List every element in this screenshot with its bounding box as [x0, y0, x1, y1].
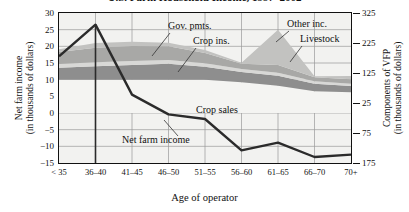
right-tick-label: 25 [362, 98, 392, 108]
left-tick-label: 15 [28, 58, 54, 68]
annotation-livestock: Livestock [300, 33, 339, 44]
annotation-net-farm-income: Net farm income [122, 134, 190, 145]
right-tick-mark [353, 73, 360, 74]
annotation-crop-ins: Crop ins. [193, 35, 230, 46]
left-tick-label: 5 [28, 91, 54, 101]
left-tick-label: 30 [28, 8, 54, 18]
right-tick-label: 225 [362, 38, 392, 48]
right-axis-title: Components of VFP (in thousands of dolla… [382, 12, 404, 164]
right-axis-title-line2: (in thousands of dollars) [393, 12, 404, 164]
left-tick-label: 25 [28, 25, 54, 35]
x-tick-label: 70+ [327, 167, 375, 177]
right-tick-mark [353, 13, 360, 14]
left-tick-label: −5 [28, 125, 54, 135]
left-tick-label: 0 [28, 108, 54, 118]
annotation-other-inc: Other inc. [287, 18, 327, 29]
annotation-crop-sales: Crop sales [196, 104, 238, 115]
right-tick-mark [353, 103, 360, 104]
annotation-gov-pmts: Gov. pmts. [168, 20, 212, 31]
x-axis-title: Age of operator [0, 192, 409, 203]
left-axis-title-line1: Net farm income [14, 12, 25, 164]
left-tick-label: 20 [28, 41, 54, 51]
right-axis-title-line1: Components of VFP [382, 12, 393, 164]
chart-title: U.S. Farm Household Income, 1997–2002 [0, 0, 409, 3]
right-tick-label: 325 [362, 8, 392, 18]
right-tick-label: 125 [362, 68, 392, 78]
left-tick-label: 10 [28, 75, 54, 85]
right-tick-mark [353, 163, 360, 164]
right-tick-mark [353, 43, 360, 44]
left-tick-label: −10 [28, 141, 54, 151]
chart-title-clipped: U.S. Farm Household Income, 1997–2002 [0, 0, 409, 7]
chart-figure: U.S. Farm Household Income, 1997–2002 Ne… [0, 0, 409, 212]
right-tick-mark [353, 133, 360, 134]
right-tick-label: 75 [362, 128, 392, 138]
